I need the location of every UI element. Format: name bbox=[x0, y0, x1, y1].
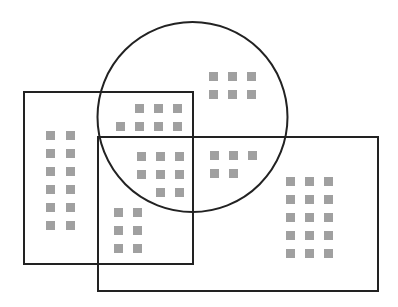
gray-square bbox=[229, 169, 238, 178]
gray-square bbox=[156, 188, 165, 197]
gray-square bbox=[137, 170, 146, 179]
gray-square bbox=[209, 72, 218, 81]
gray-square bbox=[135, 122, 144, 131]
gray-square bbox=[247, 90, 256, 99]
gray-square bbox=[173, 104, 182, 113]
gray-square bbox=[248, 151, 257, 160]
gray-square bbox=[135, 104, 144, 113]
gray-square bbox=[286, 195, 295, 204]
gray-square bbox=[66, 203, 75, 212]
venn-diagram-svg bbox=[0, 0, 398, 307]
gray-square bbox=[175, 170, 184, 179]
gray-square bbox=[175, 152, 184, 161]
venn-diagram bbox=[0, 0, 398, 307]
gray-square bbox=[66, 149, 75, 158]
region-left-only bbox=[46, 131, 75, 230]
gray-square bbox=[305, 213, 314, 222]
gray-square bbox=[286, 213, 295, 222]
region-circle-only bbox=[209, 72, 256, 99]
region-large-only bbox=[286, 177, 333, 258]
region-circle-and-large bbox=[210, 151, 257, 178]
gray-square bbox=[228, 90, 237, 99]
gray-square bbox=[137, 152, 146, 161]
gray-square bbox=[46, 167, 55, 176]
gray-square bbox=[286, 231, 295, 240]
left-rectangle bbox=[24, 92, 193, 264]
gray-square bbox=[46, 203, 55, 212]
gray-square bbox=[66, 167, 75, 176]
gray-square bbox=[154, 104, 163, 113]
gray-square bbox=[46, 221, 55, 230]
gray-square bbox=[247, 72, 256, 81]
region-left-and-large bbox=[114, 208, 142, 253]
gray-square bbox=[305, 231, 314, 240]
gray-square bbox=[156, 170, 165, 179]
gray-square bbox=[116, 122, 125, 131]
gray-square bbox=[324, 249, 333, 258]
gray-square bbox=[305, 249, 314, 258]
squares-layer bbox=[46, 72, 333, 258]
gray-square bbox=[305, 177, 314, 186]
gray-square bbox=[228, 72, 237, 81]
gray-square bbox=[66, 221, 75, 230]
gray-square bbox=[66, 131, 75, 140]
gray-square bbox=[46, 149, 55, 158]
gray-square bbox=[324, 231, 333, 240]
gray-square bbox=[173, 122, 182, 131]
gray-square bbox=[210, 169, 219, 178]
gray-square bbox=[114, 208, 123, 217]
gray-square bbox=[175, 188, 184, 197]
gray-square bbox=[210, 151, 219, 160]
gray-square bbox=[156, 152, 165, 161]
gray-square bbox=[324, 177, 333, 186]
gray-square bbox=[46, 185, 55, 194]
gray-square bbox=[209, 90, 218, 99]
gray-square bbox=[133, 226, 142, 235]
gray-square bbox=[305, 195, 314, 204]
gray-square bbox=[114, 244, 123, 253]
gray-square bbox=[66, 185, 75, 194]
gray-square bbox=[286, 177, 295, 186]
gray-square bbox=[286, 249, 295, 258]
region-left-and-circle bbox=[116, 104, 182, 131]
gray-square bbox=[133, 208, 142, 217]
gray-square bbox=[114, 226, 123, 235]
gray-square bbox=[229, 151, 238, 160]
gray-square bbox=[46, 131, 55, 140]
gray-square bbox=[324, 213, 333, 222]
gray-square bbox=[133, 244, 142, 253]
gray-square bbox=[154, 122, 163, 131]
region-left-circle-large bbox=[137, 152, 184, 197]
gray-square bbox=[324, 195, 333, 204]
